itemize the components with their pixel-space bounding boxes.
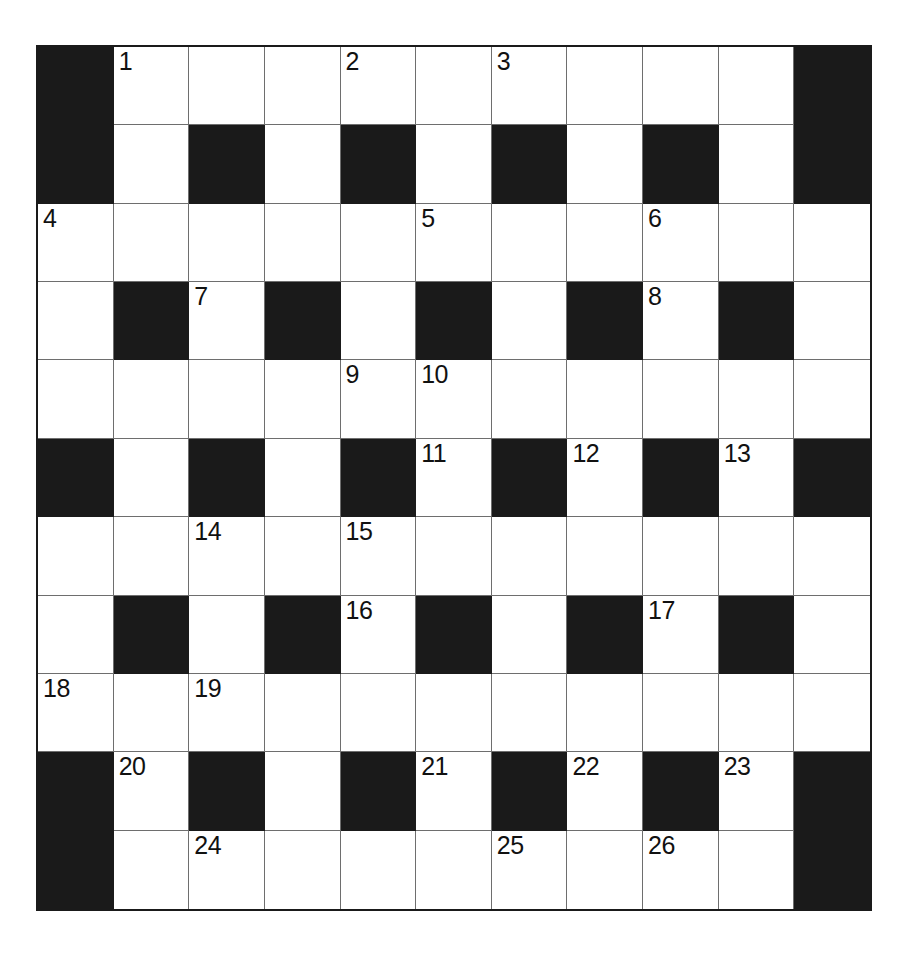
crossword-open-cell[interactable] [719,517,795,595]
crossword-open-cell[interactable] [643,674,719,752]
crossword-open-cell[interactable] [643,517,719,595]
crossword-open-cell[interactable] [719,125,795,203]
crossword-open-cell[interactable] [794,674,870,752]
crossword-open-cell[interactable] [189,47,265,125]
crossword-open-cell[interactable]: 17 [643,596,719,674]
crossword-open-cell[interactable] [265,360,341,438]
crossword-open-cell[interactable] [189,360,265,438]
crossword-open-cell[interactable]: 9 [341,360,417,438]
crossword-open-cell[interactable] [416,125,492,203]
crossword-block-cell [492,439,568,517]
crossword-open-cell[interactable]: 24 [189,831,265,909]
crossword-open-cell[interactable] [341,204,417,282]
crossword-open-cell[interactable] [114,674,190,752]
crossword-open-cell[interactable] [341,674,417,752]
crossword-open-cell[interactable] [492,204,568,282]
crossword-open-cell[interactable] [265,831,341,909]
crossword-open-cell[interactable] [567,517,643,595]
crossword-open-cell[interactable] [492,360,568,438]
crossword-open-cell[interactable] [38,596,114,674]
crossword-block-cell [189,752,265,830]
crossword-clue-number: 4 [43,205,56,231]
crossword-open-cell[interactable] [794,517,870,595]
crossword-open-cell[interactable] [719,831,795,909]
crossword-open-cell[interactable]: 2 [341,47,417,125]
crossword-open-cell[interactable] [265,47,341,125]
crossword-open-cell[interactable] [719,47,795,125]
crossword-open-cell[interactable]: 20 [114,752,190,830]
crossword-open-cell[interactable] [114,360,190,438]
crossword-open-cell[interactable] [416,674,492,752]
crossword-open-cell[interactable]: 23 [719,752,795,830]
crossword-open-cell[interactable] [794,360,870,438]
crossword-open-cell[interactable] [719,360,795,438]
crossword-open-cell[interactable] [492,674,568,752]
crossword-open-cell[interactable] [643,360,719,438]
crossword-open-cell[interactable]: 5 [416,204,492,282]
crossword-open-cell[interactable]: 18 [38,674,114,752]
crossword-open-cell[interactable]: 15 [341,517,417,595]
crossword-open-cell[interactable]: 25 [492,831,568,909]
crossword-open-cell[interactable] [719,674,795,752]
crossword-open-cell[interactable] [38,282,114,360]
crossword-open-cell[interactable]: 22 [567,752,643,830]
crossword-open-cell[interactable]: 16 [341,596,417,674]
crossword-clue-number: 14 [194,518,221,544]
crossword-open-cell[interactable] [719,204,795,282]
crossword-clue-number: 6 [648,205,661,231]
crossword-open-cell[interactable] [114,204,190,282]
crossword-open-cell[interactable] [265,204,341,282]
crossword-open-cell[interactable] [189,204,265,282]
crossword-open-cell[interactable] [416,831,492,909]
crossword-block-cell [265,282,341,360]
crossword-open-cell[interactable]: 14 [189,517,265,595]
crossword-open-cell[interactable] [794,596,870,674]
crossword-open-cell[interactable]: 10 [416,360,492,438]
crossword-clue-number: 5 [421,205,434,231]
crossword-open-cell[interactable]: 1 [114,47,190,125]
crossword-clue-number: 1 [119,48,132,74]
crossword-open-cell[interactable] [567,125,643,203]
crossword-open-cell[interactable]: 21 [416,752,492,830]
crossword-open-cell[interactable]: 3 [492,47,568,125]
crossword-open-cell[interactable] [492,596,568,674]
crossword-open-cell[interactable] [265,517,341,595]
crossword-open-cell[interactable] [265,439,341,517]
crossword-open-cell[interactable] [114,125,190,203]
crossword-page: 1234567891011121314151617181920212223242… [0,0,906,956]
crossword-open-cell[interactable]: 4 [38,204,114,282]
crossword-grid[interactable]: 1234567891011121314151617181920212223242… [36,45,872,911]
crossword-open-cell[interactable] [492,282,568,360]
crossword-open-cell[interactable] [114,831,190,909]
crossword-open-cell[interactable]: 19 [189,674,265,752]
crossword-open-cell[interactable] [341,831,417,909]
crossword-open-cell[interactable] [265,674,341,752]
crossword-open-cell[interactable] [567,831,643,909]
crossword-open-cell[interactable] [189,596,265,674]
crossword-block-cell [38,752,114,830]
crossword-open-cell[interactable]: 8 [643,282,719,360]
crossword-open-cell[interactable]: 12 [567,439,643,517]
crossword-open-cell[interactable] [567,360,643,438]
crossword-open-cell[interactable] [341,282,417,360]
crossword-open-cell[interactable] [114,439,190,517]
crossword-open-cell[interactable]: 11 [416,439,492,517]
crossword-open-cell[interactable] [416,47,492,125]
crossword-open-cell[interactable]: 13 [719,439,795,517]
crossword-open-cell[interactable] [567,674,643,752]
crossword-open-cell[interactable]: 7 [189,282,265,360]
crossword-open-cell[interactable] [567,47,643,125]
crossword-open-cell[interactable] [265,125,341,203]
crossword-open-cell[interactable]: 6 [643,204,719,282]
crossword-open-cell[interactable] [643,47,719,125]
crossword-open-cell[interactable] [567,204,643,282]
crossword-open-cell[interactable] [416,517,492,595]
crossword-open-cell[interactable] [38,517,114,595]
crossword-open-cell[interactable] [265,752,341,830]
crossword-open-cell[interactable] [492,517,568,595]
crossword-open-cell[interactable] [794,204,870,282]
crossword-open-cell[interactable]: 26 [643,831,719,909]
crossword-open-cell[interactable] [38,360,114,438]
crossword-open-cell[interactable] [114,517,190,595]
crossword-open-cell[interactable] [794,282,870,360]
